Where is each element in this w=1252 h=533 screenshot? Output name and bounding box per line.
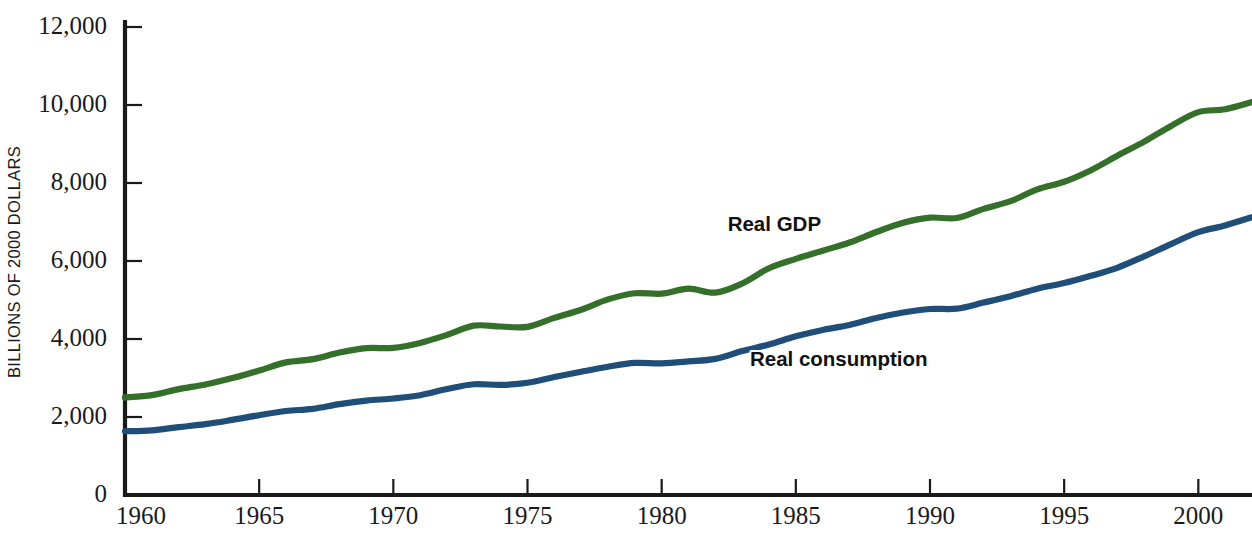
- series-annotations: Real GDPReal consumption: [728, 212, 928, 370]
- x-tick-label: 1995: [1039, 502, 1089, 529]
- x-tick-label: 1970: [368, 502, 418, 529]
- y-tick-label: 2,000: [51, 402, 107, 429]
- y-tick-label: 6,000: [51, 246, 107, 273]
- x-tick-label: 2000: [1173, 502, 1223, 529]
- y-axis-tick-marks: [125, 27, 142, 417]
- y-axis-title-text: BILLIONS OF 2000 DOLLARS: [5, 146, 23, 378]
- chart-svg: BILLIONS OF 2000 DOLLARS 02,0004,0006,00…: [0, 0, 1252, 533]
- x-axis-tick-labels: 196019651970197519801985199019952000: [116, 502, 1223, 529]
- x-tick-label: 1960: [116, 502, 166, 529]
- series-label-real-consumption: Real consumption: [750, 347, 928, 370]
- y-tick-label: 0: [95, 480, 108, 507]
- x-axis-tick-marks: [259, 479, 1198, 495]
- x-tick-label: 1980: [637, 502, 687, 529]
- x-tick-label: 1965: [234, 502, 284, 529]
- axis-lines: [125, 20, 1252, 495]
- data-series-group: [125, 102, 1252, 431]
- y-tick-label: 8,000: [51, 168, 107, 195]
- x-tick-label: 1975: [503, 502, 553, 529]
- y-tick-label: 12,000: [38, 12, 107, 39]
- x-tick-label: 1990: [905, 502, 955, 529]
- series-label-real-gdp: Real GDP: [728, 212, 821, 235]
- series-line-real-gdp: [125, 102, 1252, 397]
- series-line-real-consumption: [125, 217, 1252, 431]
- y-axis-title: BILLIONS OF 2000 DOLLARS: [5, 146, 23, 378]
- y-tick-label: 4,000: [51, 324, 107, 351]
- y-tick-label: 10,000: [38, 90, 107, 117]
- x-tick-label: 1985: [771, 502, 821, 529]
- y-axis-tick-labels: 02,0004,0006,0008,00010,00012,000: [38, 12, 107, 507]
- chart-container: BILLIONS OF 2000 DOLLARS 02,0004,0006,00…: [0, 0, 1252, 533]
